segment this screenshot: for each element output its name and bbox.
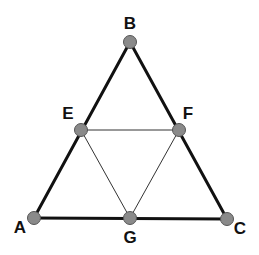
node-a xyxy=(28,212,41,225)
diagram-canvas: ABCEFG xyxy=(0,0,259,255)
label-f: F xyxy=(183,104,193,123)
label-g: G xyxy=(123,228,136,247)
label-b: B xyxy=(124,14,136,33)
node-f xyxy=(173,124,186,137)
label-a: A xyxy=(14,218,26,237)
edge-eg xyxy=(81,130,130,218)
label-e: E xyxy=(62,104,73,123)
node-e xyxy=(75,124,88,137)
node-g xyxy=(124,212,137,225)
node-c xyxy=(221,213,234,226)
triangle-diagram: ABCEFG xyxy=(0,0,259,255)
label-c: C xyxy=(234,219,246,238)
inner-triangle-edges xyxy=(81,130,179,218)
node-b xyxy=(124,36,137,49)
edge-fg xyxy=(130,130,179,218)
